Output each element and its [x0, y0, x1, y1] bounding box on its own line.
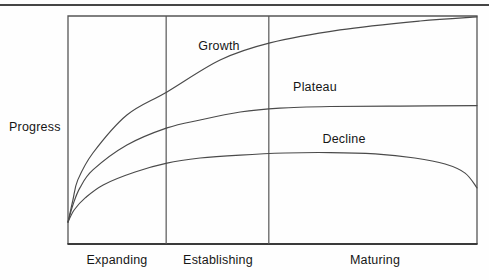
curve-plateau [68, 106, 477, 223]
curve-decline [68, 153, 477, 223]
phase-label-maturing: Maturing [350, 254, 400, 268]
curve-growth [68, 17, 477, 222]
curve-paths [68, 17, 477, 222]
curve-label-decline: Decline [322, 133, 365, 147]
chart-canvas [0, 0, 489, 280]
figure: Progress Growth Plateau Decline Expandin… [0, 0, 489, 280]
chart-frame [67, 16, 477, 244]
curve-label-plateau: Plateau [293, 81, 337, 95]
phase-label-establishing: Establishing [183, 254, 253, 268]
y-axis-label: Progress [9, 121, 61, 135]
phase-label-expanding: Expanding [87, 254, 148, 268]
curve-label-growth: Growth [198, 40, 240, 54]
